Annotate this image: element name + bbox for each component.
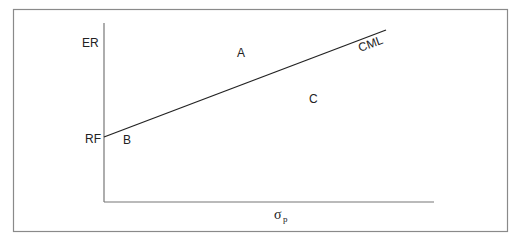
- y-axis-label: ER: [82, 36, 99, 50]
- rf-label: RF: [85, 132, 101, 146]
- region-label-b: B: [123, 133, 131, 147]
- x-axis-label-subscript: p: [283, 214, 288, 224]
- cml-label: CML: [356, 33, 385, 55]
- region-label-a: A: [237, 46, 245, 60]
- cml-diagram: ER RF B A C CML σ p: [0, 0, 522, 247]
- x-axis-label: σ: [274, 207, 282, 222]
- region-label-c: C: [309, 92, 318, 106]
